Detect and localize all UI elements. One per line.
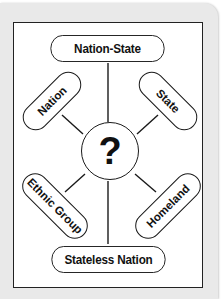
node-nation-state: Nation-State [50, 35, 164, 62]
node-stateless-nation: Stateless Nation [51, 246, 165, 273]
connector-lower-left [65, 174, 85, 192]
connector-upper-left [62, 115, 83, 134]
center-question-circle: ? [81, 122, 139, 180]
question-mark-icon: ? [98, 130, 121, 173]
connector-lower-right [135, 174, 156, 192]
node-label: Nation-State [74, 41, 141, 56]
node-label: Stateless Nation [64, 252, 152, 267]
connector-upper-right [137, 115, 158, 134]
